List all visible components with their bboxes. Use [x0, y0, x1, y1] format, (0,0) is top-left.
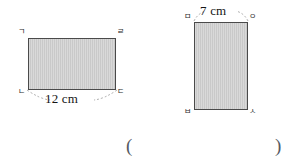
right-rect-dimension-label: 7 cm — [200, 4, 226, 17]
left-rect-vertex-top-left: ㄱ — [18, 28, 25, 36]
left-rect-vertex-top-right: ㄹ — [117, 28, 124, 36]
answer-row: ( ) — [0, 128, 294, 168]
left-rect-vertex-bottom-right: ㄷ — [117, 88, 124, 96]
right-rect-vertex-top-right: ㅇ — [249, 13, 256, 21]
worksheet-figure-page: ㄱ ㄹ ㄴ ㄷ 12 cm ㅁ ㅇ ㅂ ㅅ 7 cm ( ) — [0, 0, 294, 168]
left-rectangle-figure: ㄱ ㄹ ㄴ ㄷ 12 cm — [0, 0, 160, 130]
left-rect-vertex-bottom-left: ㄴ — [18, 88, 25, 96]
right-rectangle-shape — [194, 22, 248, 110]
left-rectangle-shape — [28, 38, 116, 90]
right-rect-vertex-bottom-left: ㅂ — [184, 108, 191, 116]
right-rectangle-figure: ㅁ ㅇ ㅂ ㅅ 7 cm — [160, 0, 294, 130]
left-rect-dimension-label: 12 cm — [45, 92, 78, 105]
right-rect-vertex-bottom-right: ㅅ — [249, 108, 256, 116]
right-rect-vertex-top-left: ㅁ — [184, 13, 191, 21]
answer-open-paren: ( — [126, 136, 132, 155]
answer-close-paren: ) — [275, 136, 281, 155]
